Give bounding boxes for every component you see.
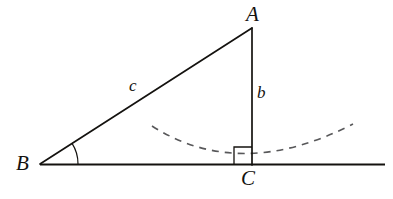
- right-angle-marker-at-c: [234, 147, 252, 165]
- vertex-label-a: A: [246, 4, 259, 25]
- side-label-c: c: [129, 77, 137, 94]
- angle-arc-at-b: [72, 143, 78, 164]
- side-label-b: b: [257, 84, 266, 101]
- geometry-diagram: A B C c b: [0, 0, 393, 199]
- vertex-label-c: C: [241, 168, 255, 189]
- vertex-label-b: B: [16, 153, 29, 174]
- triangle-figure-svg: [0, 0, 393, 199]
